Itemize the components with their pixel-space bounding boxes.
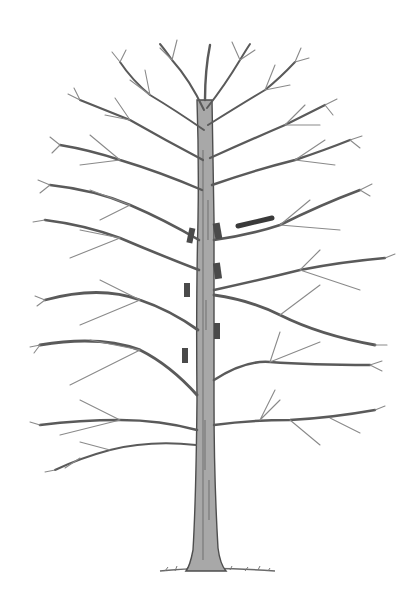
tree-drawing xyxy=(0,0,408,614)
pruned-branch-stub xyxy=(238,218,272,226)
tree-illustration xyxy=(0,0,408,614)
pruning-marker xyxy=(182,348,188,363)
pruning-marker xyxy=(214,323,220,339)
pruning-marker xyxy=(184,283,190,297)
pruning-marker xyxy=(186,228,195,244)
